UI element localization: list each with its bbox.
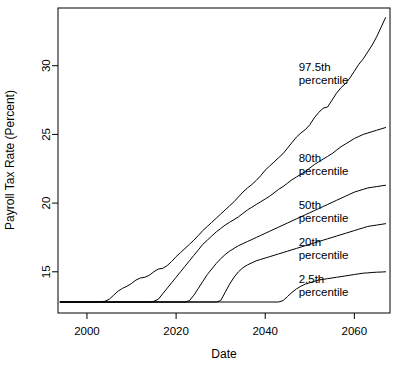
series-labels: 97.5thpercentile80thpercentile50thpercen…: [299, 61, 349, 298]
series-label-2-5th-percentile-2: percentile: [299, 286, 349, 298]
y-axis-title: Payroll Tax Rate (Percent): [3, 90, 17, 230]
y-tick-label: 30: [40, 59, 52, 72]
x-axis-title: Date: [211, 347, 237, 361]
series-label-50th-percentile: 50th: [299, 199, 321, 211]
y-axis: 15202530: [40, 59, 58, 278]
y-tick-label: 25: [40, 128, 52, 141]
series-label-80th-percentile: 80th: [299, 152, 321, 164]
series-label-2-5th-percentile: 2.5th: [299, 273, 325, 285]
x-tick-label: 2060: [342, 325, 368, 337]
series-label-97-5th-percentile-2: percentile: [299, 74, 349, 86]
series-line-50th-percentile: [60, 185, 385, 302]
x-tick-label: 2040: [252, 325, 278, 337]
x-tick-label: 2020: [163, 325, 189, 337]
plot-box: [58, 8, 390, 313]
series-label-97-5th-percentile: 97.5th: [299, 61, 331, 73]
series-label-80th-percentile-2: percentile: [299, 165, 349, 177]
y-tick-label: 20: [40, 197, 52, 210]
series-label-20th-percentile: 20th: [299, 236, 321, 248]
plot-frame: [58, 8, 390, 313]
chart-svg: 2000202020402060 15202530 97.5thpercenti…: [0, 0, 410, 367]
x-tick-label: 2000: [74, 325, 100, 337]
series-label-50th-percentile-2: percentile: [299, 212, 349, 224]
series-label-20th-percentile-2: percentile: [299, 249, 349, 261]
x-axis: 2000202020402060: [74, 313, 367, 337]
y-tick-label: 15: [40, 265, 52, 278]
payroll-tax-rate-chart: 2000202020402060 15202530 97.5thpercenti…: [0, 0, 410, 367]
